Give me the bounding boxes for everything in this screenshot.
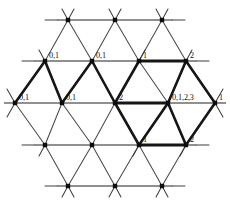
- node-n0-2: [160, 18, 164, 22]
- node-n2-0: [13, 101, 17, 105]
- vertex-label-n3-2: 1: [143, 135, 147, 144]
- edge-d6: [162, 20, 186, 61]
- node-n3-0: [43, 143, 47, 147]
- vertex-label-n2-1: 0,1: [66, 93, 76, 102]
- node-n2-1: [60, 101, 64, 105]
- vertex-labels: 0,1 0,1 1 2 0,1 0,1 2 0,1,2,3 1 1 2: [19, 51, 223, 144]
- bold-edge-11: [168, 103, 186, 145]
- vertex-label-n2-3: 0,1,2,3: [172, 93, 194, 102]
- node-n2-2: [113, 101, 117, 105]
- vertex-label-n2-2: 2: [119, 93, 123, 102]
- edge-d18: [92, 103, 115, 145]
- node-n4-2: [160, 184, 164, 188]
- node-n3-2: [137, 143, 141, 147]
- node-n4-0: [66, 184, 70, 188]
- edge-d4: [115, 20, 139, 61]
- vertex-label-n3-3: 2: [190, 135, 194, 144]
- edge-d17: [62, 103, 92, 145]
- lattice-canvas: 0,1 0,1 1 2 0,1 0,1 2 0,1,2,3 1 1 2: [0, 0, 230, 209]
- node-n3-3: [184, 143, 188, 147]
- edge-d16: [45, 103, 62, 145]
- vertex-label-n1-2: 1: [143, 51, 147, 60]
- edge-d25: [92, 145, 115, 186]
- node-n4-1: [113, 184, 117, 188]
- lattice-figure: 0,1 0,1 1 2 0,1 0,1 2 0,1,2,3 1 1 2: [0, 0, 230, 209]
- node-n1-3: [184, 59, 188, 63]
- vertex-label-n1-1: 0,1: [96, 51, 106, 60]
- edge-d15: [15, 103, 45, 145]
- vertex-label-n2-4: 1: [219, 93, 223, 102]
- bold-edge-4: [92, 61, 115, 103]
- edge-d27: [139, 145, 162, 186]
- vertex-label-n1-3: 2: [190, 51, 194, 60]
- edge-d12: [139, 61, 168, 103]
- node-n2-3: [166, 101, 170, 105]
- node-n1-2: [137, 59, 141, 63]
- node-n2-4: [213, 101, 217, 105]
- bold-edge-14: [115, 103, 139, 145]
- node-n3-1: [90, 143, 94, 147]
- vertex-label-n1-0: 0,1: [49, 51, 59, 60]
- edge-d23: [45, 145, 68, 186]
- node-n1-1: [90, 59, 94, 63]
- edge-d2: [68, 20, 92, 61]
- vertex-label-n2-0: 0,1: [19, 93, 29, 102]
- node-n1-0: [43, 59, 47, 63]
- edge-d24: [68, 145, 92, 186]
- node-n0-0: [66, 18, 70, 22]
- bold-edge-2: [45, 61, 62, 103]
- node-n0-1: [113, 18, 117, 22]
